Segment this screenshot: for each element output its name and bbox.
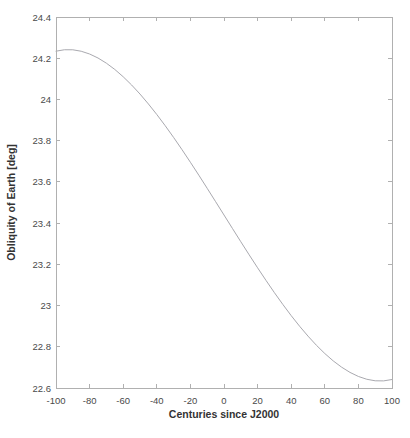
y-tick-label: 24.2	[33, 53, 52, 64]
y-tick-label: 24	[40, 94, 51, 105]
y-tick-label: 23	[40, 300, 51, 311]
y-tick-label: 23.6	[33, 176, 52, 187]
x-tick-label: 40	[286, 395, 297, 406]
y-tick-label: 22.8	[33, 341, 52, 352]
x-tick-label: -80	[83, 395, 97, 406]
y-tick-label: 24.4	[33, 12, 52, 23]
y-axis-label: Obliquity of Earth [deg]	[5, 144, 17, 261]
x-tick-label: 100	[384, 395, 400, 406]
y-tick-label: 23.8	[33, 135, 52, 146]
y-tick-label: 23.2	[33, 259, 52, 270]
x-axis-label: Centuries since J2000	[169, 408, 279, 420]
x-tick-label: -20	[184, 395, 198, 406]
plot-area	[56, 17, 392, 388]
obliquity-chart: -100-80-60-40-2002040608010022.622.82323…	[0, 0, 410, 438]
y-tick-label: 22.6	[33, 383, 52, 394]
x-tick-label: -60	[116, 395, 130, 406]
x-tick-label: -100	[46, 395, 65, 406]
x-tick-label: -40	[150, 395, 164, 406]
figure-window: -100-80-60-40-2002040608010022.622.82323…	[0, 0, 410, 438]
x-tick-label: 0	[221, 395, 226, 406]
x-tick-label: 20	[252, 395, 263, 406]
x-tick-label: 60	[320, 395, 331, 406]
x-tick-label: 80	[353, 395, 364, 406]
y-tick-label: 23.4	[33, 218, 52, 229]
